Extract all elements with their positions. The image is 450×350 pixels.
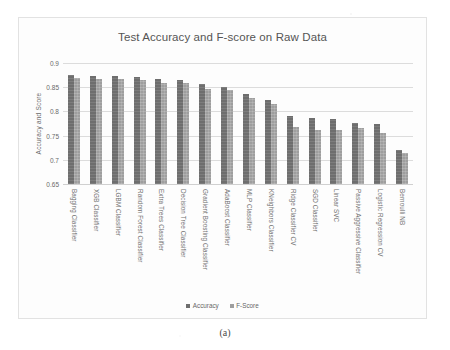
x-axis-label-slot: Random Forest Classifier [129, 187, 151, 299]
bar-fscore [358, 128, 364, 184]
x-axis-tick-label: Random Forest Classifier [136, 189, 143, 262]
bar-group [216, 63, 238, 184]
y-axis-tick-label: 0.9 [50, 60, 59, 67]
x-axis-label-slot: LGBM Classifier [107, 187, 129, 299]
figure-caption: (a) [0, 327, 450, 338]
x-axis-tick-label: Extra Trees Classifier [158, 189, 165, 251]
bar-group [194, 63, 216, 184]
x-axis-label-slot: SGD Classifier [304, 187, 326, 299]
bar-fscore [118, 79, 124, 184]
x-axis-label-slot: MLP Classifier [238, 187, 260, 299]
x-axis-tick-label: Gradient Boosting Classifier [202, 189, 209, 270]
x-axis-label-slot: Bagging Classifier [63, 187, 85, 299]
bar-fscore [315, 130, 321, 184]
x-axis-tick-label: Passive Aggressive Classifier [355, 189, 362, 274]
y-axis-tick-label: 0.65 [46, 181, 59, 188]
x-axis-tick-label: Linear SVC [333, 189, 340, 222]
gridline [63, 184, 413, 185]
x-axis-label-slot: Linear SVC [326, 187, 348, 299]
x-axis-label-slot: Bernoulli NB [391, 187, 413, 299]
x-axis-tick-label: Ridge Classifier CV [289, 189, 296, 246]
bar-group [282, 63, 304, 184]
x-axis-tick-label: LGBM Classifier [114, 189, 121, 236]
bar-fscore [293, 127, 299, 184]
bar-fscore [161, 83, 167, 184]
bar-group [172, 63, 194, 184]
y-axis-tick-label: 0.85 [46, 84, 59, 91]
legend-item: Accuracy [186, 302, 218, 309]
bar-group [369, 63, 391, 184]
bar-group [347, 63, 369, 184]
chart-frame: Test Accuracy and F-score on Raw Data Ac… [18, 17, 427, 319]
x-axis-label-slot: Ridge Classifier CV [282, 187, 304, 299]
x-axis-tick-label: KNeighbors Classifier [267, 189, 274, 252]
x-axis-label-slot: XGB Classifier [85, 187, 107, 299]
x-axis-label-slot: Logistic Regression CV [369, 187, 391, 299]
bar-group [63, 63, 85, 184]
bar-fscore [205, 89, 211, 184]
bar-fscore [402, 153, 408, 184]
x-axis-tick-label: Bagging Classifier [70, 189, 77, 242]
bar-fscore [183, 83, 189, 184]
bar-fscore [336, 130, 342, 184]
bar-group [304, 63, 326, 184]
legend-swatch-icon [230, 304, 234, 308]
y-axis-tick-label: 0.7 [50, 156, 59, 163]
bar-fscore [74, 78, 80, 184]
chart-legend: AccuracyF-Score [19, 302, 426, 309]
bars-layer [63, 63, 413, 184]
x-axis-label-slot: Gradient Boosting Classifier [194, 187, 216, 299]
x-axis-tick-label: SGD Classifier [311, 189, 318, 232]
x-axis-label-slot: Decision Tree Classifier [172, 187, 194, 299]
x-axis-label-slot: KNeighbors Classifier [260, 187, 282, 299]
x-axis-tick-label: Decision Tree Classifier [180, 189, 187, 258]
bar-group [391, 63, 413, 184]
bar-fscore [380, 133, 386, 184]
legend-label: Accuracy [193, 302, 219, 309]
x-axis-tick-label: XGB Classifier [92, 189, 99, 231]
x-axis-label-slot: Passive Aggressive Classifier [347, 187, 369, 299]
plot-area: 0.90.850.80.750.70.65 [63, 63, 413, 184]
x-axis-label-slot: Extra Trees Classifier [151, 187, 173, 299]
bar-fscore [140, 80, 146, 184]
bar-group [326, 63, 348, 184]
x-axis-labels: Bagging ClassifierXGB ClassifierLGBM Cla… [63, 187, 413, 299]
legend-swatch-icon [186, 304, 190, 308]
x-axis-label-slot: AdaBoost Classifier [216, 187, 238, 299]
bar-fscore [249, 98, 255, 184]
bar-group [238, 63, 260, 184]
legend-label: F-Score [236, 302, 258, 309]
x-axis-tick-label: AdaBoost Classifier [224, 189, 231, 246]
x-axis-tick-label: Bernoulli NB [399, 189, 406, 225]
y-axis-title-label: Accuracy and Score [36, 93, 43, 155]
bar-fscore [227, 90, 233, 184]
bar-group [151, 63, 173, 184]
y-axis-title: Accuracy and Score [33, 63, 45, 184]
bar-fscore [96, 79, 102, 184]
chart-title: Test Accuracy and F-score on Raw Data [19, 31, 426, 43]
legend-item: F-Score [230, 302, 259, 309]
bar-group [129, 63, 151, 184]
y-axis-tick-label: 0.8 [50, 108, 59, 115]
bar-group [107, 63, 129, 184]
x-axis-tick-label: Logistic Regression CV [377, 189, 384, 257]
bar-fscore [271, 104, 277, 184]
y-axis-tick-label: 0.75 [46, 132, 59, 139]
figure-container: Test Accuracy and F-score on Raw Data Ac… [0, 0, 450, 350]
x-axis-tick-label: MLP Classifier [245, 189, 252, 231]
bar-group [260, 63, 282, 184]
bar-group [85, 63, 107, 184]
